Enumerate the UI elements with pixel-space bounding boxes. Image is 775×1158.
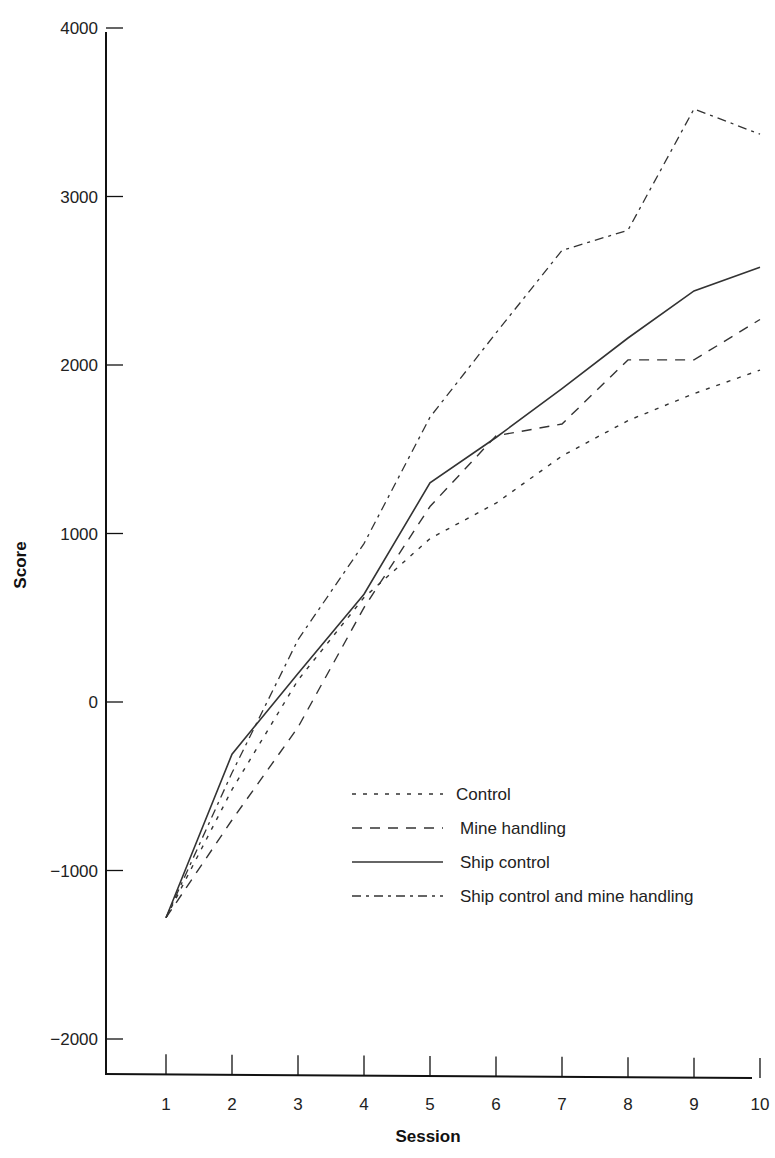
x-tick-label: 7: [557, 1095, 566, 1114]
y-tick-label: −2000: [50, 1030, 98, 1049]
y-tick-label: 2000: [60, 356, 98, 375]
y-axis: −2000−100001000200030004000: [50, 19, 123, 1074]
x-tick-label: 10: [751, 1095, 770, 1114]
x-tick-label: 1: [161, 1095, 170, 1114]
y-tick-label: 0: [89, 693, 98, 712]
x-tick-label: 3: [293, 1095, 302, 1114]
legend-label: Ship control and mine handling: [460, 887, 693, 906]
legend-label: Mine handling: [460, 819, 566, 838]
legend-label: Control: [456, 785, 511, 804]
x-axis-title: Session: [395, 1127, 460, 1146]
x-tick-label: 4: [359, 1095, 368, 1114]
y-tick-label: −1000: [50, 862, 98, 881]
y-tick-label: 3000: [60, 188, 98, 207]
line-chart: −2000−100001000200030004000 12345678910 …: [0, 0, 775, 1158]
legend-label: Ship control: [460, 853, 550, 872]
x-axis: 12345678910: [105, 1054, 769, 1114]
x-tick-label: 6: [491, 1095, 500, 1114]
y-tick-label: 1000: [60, 525, 98, 544]
x-tick-label: 2: [227, 1095, 236, 1114]
x-tick-label: 9: [689, 1095, 698, 1114]
y-tick-label: 4000: [60, 19, 98, 38]
x-tick-label: 8: [623, 1095, 632, 1114]
x-axis-line: [105, 1074, 752, 1078]
y-axis-title: Score: [11, 541, 30, 588]
x-tick-label: 5: [425, 1095, 434, 1114]
legend: ControlMine handlingShip controlShip con…: [352, 785, 693, 906]
